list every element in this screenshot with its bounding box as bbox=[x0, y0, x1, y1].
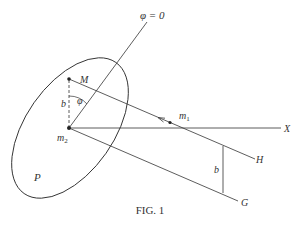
figure-caption: FIG. 1 bbox=[0, 204, 300, 216]
label-m2: m2 bbox=[57, 132, 68, 145]
diagram-canvas: φ = 0 M φ b m2 m1 X H G b P bbox=[0, 0, 300, 225]
point-m2 bbox=[67, 126, 71, 130]
label-m: M bbox=[79, 74, 89, 85]
label-b-right: b bbox=[214, 164, 219, 175]
label-x: X bbox=[283, 123, 291, 134]
point-m bbox=[67, 77, 71, 81]
trajectory-line-mh bbox=[69, 79, 255, 159]
label-phi-zero: φ = 0 bbox=[140, 9, 165, 21]
label-p: P bbox=[33, 171, 41, 183]
label-phi: φ bbox=[77, 95, 83, 106]
label-b-left: b bbox=[61, 98, 66, 109]
label-h: H bbox=[255, 154, 264, 165]
point-m1 bbox=[168, 121, 171, 124]
label-m1: m1 bbox=[179, 110, 190, 123]
asymptote-line-g bbox=[69, 128, 238, 201]
